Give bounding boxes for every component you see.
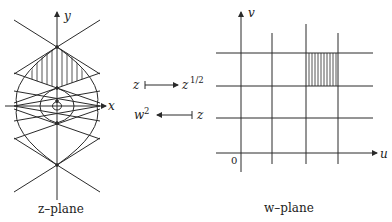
x-axis-label: x [108, 99, 115, 113]
inverse-from-label: z [196, 108, 204, 122]
inverse-to-exponent: 2 [144, 106, 149, 116]
z-plane-diagram [5, 12, 106, 200]
origin-label: 0 [231, 155, 237, 166]
z-plane-caption: z–plane [38, 202, 84, 216]
w-plane-diagram [216, 12, 377, 172]
y-axis-label: y [63, 9, 71, 23]
forward-from-label: z [132, 78, 140, 92]
conformal-map-diagram: y x z–plane z z 1/2 w 2 z [0, 0, 392, 222]
v-axis-label: v [248, 6, 255, 20]
forward-to-label: z [181, 78, 189, 92]
w-plane-caption: w–plane [264, 201, 314, 215]
forward-to-exponent: 1/2 [190, 75, 204, 85]
u-axis-label: u [380, 147, 388, 161]
shaded-region-w [309, 53, 336, 86]
